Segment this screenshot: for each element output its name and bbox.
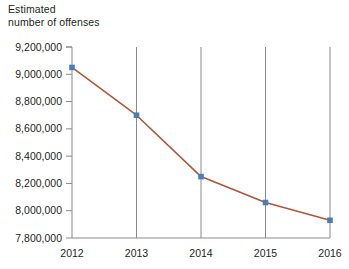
y-axis-tick-marks xyxy=(66,47,72,238)
y-axis-tick-labels: 7,800,0008,000,0008,200,0008,400,0008,60… xyxy=(15,41,62,244)
x-axis-tick-label: 2012 xyxy=(60,247,84,259)
data-point-marker xyxy=(327,217,333,223)
data-point-marker xyxy=(69,65,75,71)
y-axis-tick-label: 8,400,000 xyxy=(15,150,62,162)
x-axis-tick-label: 2016 xyxy=(318,247,342,259)
data-point-marker xyxy=(263,200,269,206)
x-axis-tick-label: 2014 xyxy=(189,247,213,259)
x-axis-tick-label: 2013 xyxy=(125,247,149,259)
y-axis-tick-label: 8,800,000 xyxy=(15,95,62,107)
data-point-marker xyxy=(134,112,140,118)
x-axis-tick-labels: 20122013201420152016 xyxy=(60,247,342,259)
y-axis-tick-label: 9,000,000 xyxy=(15,68,62,80)
chart-plot-area: 7,800,0008,000,0008,200,0008,400,0008,60… xyxy=(0,0,349,269)
y-axis-tick-label: 8,000,000 xyxy=(15,204,62,216)
y-axis-tick-label: 7,800,000 xyxy=(15,232,62,244)
data-point-marker xyxy=(198,174,204,180)
line-chart-figure: Estimated number of offenses 7,800,0008,… xyxy=(0,0,349,269)
y-axis-tick-label: 9,200,000 xyxy=(15,41,62,53)
y-axis-tick-label: 8,200,000 xyxy=(15,177,62,189)
x-axis-tick-label: 2015 xyxy=(254,247,278,259)
y-axis-tick-label: 8,600,000 xyxy=(15,122,62,134)
